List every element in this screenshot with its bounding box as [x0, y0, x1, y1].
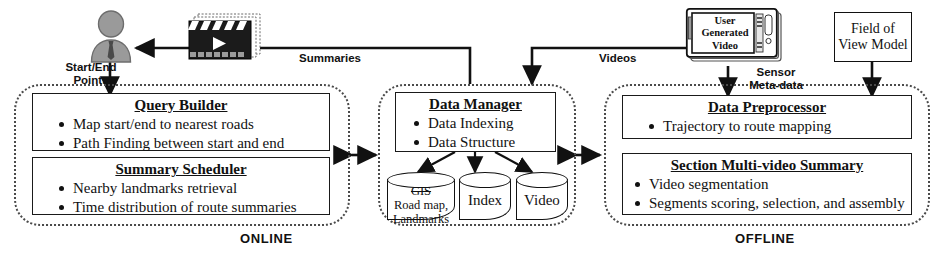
panel-data-manager-list: Data Indexing Data Structure [396, 114, 555, 151]
phone-line2: Generated [701, 27, 748, 38]
panel-summary-scheduler-title: Summary Scheduler [33, 161, 329, 178]
datastore-index[interactable]: Index [459, 172, 511, 220]
list-item: Segments scoring, selection, and assembl… [635, 194, 911, 212]
cylinder-top [459, 172, 511, 188]
cylinder-top [516, 172, 568, 188]
panel-query-builder-list: Map start/end to nearest roads Path Find… [33, 115, 329, 152]
panel-section-multi-video-summary-title: Section Multi-video Summary [623, 157, 911, 174]
start-end-line2: Points [73, 74, 108, 86]
panel-summary-scheduler[interactable]: Summary Scheduler Nearby landmarks retri… [32, 157, 330, 215]
videos-text: Videos [599, 52, 637, 64]
clapperboard-icon [186, 12, 268, 64]
smartphone-icon: User Generated Video [686, 8, 792, 66]
user-icon [88, 10, 134, 62]
phone-line3: Video [712, 40, 738, 51]
list-item: Video segmentation [635, 175, 911, 193]
panel-section-multi-video-summary[interactable]: Section Multi-video Summary Video segmen… [622, 153, 912, 215]
datastore-video-label: Video [516, 192, 568, 209]
panel-data-preprocessor-list: Trajectory to route mapping [623, 117, 911, 135]
datastore-gis[interactable]: GIS Road map, Landmarks [387, 172, 455, 220]
datastore-video[interactable]: Video [516, 172, 568, 220]
list-item: Data Structure [414, 133, 555, 151]
phone-screen-label: User Generated Video [697, 15, 753, 52]
panel-query-builder-title: Query Builder [33, 97, 329, 114]
list-item: Map start/end to nearest roads [59, 115, 329, 133]
panel-data-preprocessor[interactable]: Data Preprocessor Trajectory to route ma… [622, 95, 912, 139]
datastore-gis-line1: GIS [411, 184, 431, 198]
section-offline-label: OFFLINE [735, 231, 795, 246]
list-item: Path Finding between start and end [59, 134, 329, 152]
datastore-gis-line3: Landmarks [393, 212, 449, 226]
list-item: Trajectory to route mapping [649, 117, 911, 135]
datastore-video-line1: Video [524, 192, 560, 208]
list-item: Data Indexing [414, 114, 555, 132]
sensor-line2: Meta-data [749, 79, 803, 91]
list-item: Time distribution of route summaries [59, 198, 329, 216]
edge-label-sensor-metadata: Sensor Meta-data [737, 66, 815, 92]
diagram-canvas: ONLINE Query Builder Map start/end to ne… [0, 0, 947, 267]
list-item: Nearby landmarks retrieval [59, 179, 329, 197]
edge-label-summaries: Summaries [299, 52, 361, 65]
panel-data-manager-title: Data Manager [396, 96, 555, 113]
datastore-index-line1: Index [468, 192, 502, 208]
datastore-index-label: Index [459, 192, 511, 209]
datastore-gis-line2: Road map, [394, 198, 448, 212]
fov-line1: Field of [851, 21, 895, 36]
sensor-line1: Sensor [757, 66, 796, 78]
panel-data-preprocessor-title: Data Preprocessor [623, 99, 911, 116]
panel-summary-scheduler-list: Nearby landmarks retrieval Time distribu… [33, 179, 329, 216]
summaries-text: Summaries [299, 52, 361, 64]
panel-section-multi-video-summary-list: Video segmentation Segments scoring, sel… [623, 175, 911, 212]
field-of-view-model-label: Field of View Model [838, 21, 908, 52]
section-online-label: ONLINE [240, 231, 293, 246]
start-end-line1: Start/End [65, 61, 116, 73]
panel-query-builder[interactable]: Query Builder Map start/end to nearest r… [32, 93, 330, 151]
field-of-view-model-box[interactable]: Field of View Model [834, 12, 912, 62]
fov-line2: View Model [838, 37, 908, 52]
edge-label-start-end-points: Start/End Points [54, 61, 128, 87]
panel-data-manager[interactable]: Data Manager Data Indexing Data Structur… [395, 92, 556, 152]
datastore-gis-label: GIS Road map, Landmarks [387, 184, 455, 226]
phone-line1: User [715, 15, 736, 26]
edge-label-videos: Videos [599, 52, 637, 65]
